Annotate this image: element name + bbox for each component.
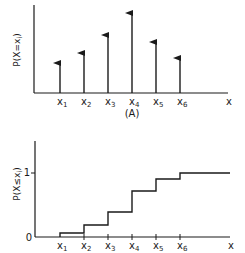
pmf-tick-x6: x6 <box>177 96 188 109</box>
cdf-tick-x3: x3 <box>105 240 115 253</box>
pmf-tick-x2: x2 <box>81 96 91 109</box>
cdf-y-tick-label-one: 1 <box>24 167 30 178</box>
cdf-x-label: x <box>228 240 234 251</box>
pmf-caption: (A) <box>125 108 140 119</box>
cdf-tick-x2: x2 <box>81 240 91 253</box>
cdf-tick-x1: x1 <box>57 240 67 253</box>
pmf-tick-x5: x5 <box>153 96 163 109</box>
cdf-tick-x4: x4 <box>129 240 140 253</box>
pmf-y-label: P(X=xi) <box>12 33 24 66</box>
cdf-tick-x6: x6 <box>177 240 188 253</box>
cdf-y-label: P(X≤xi) <box>12 167 24 200</box>
pmf-tick-x1: x1 <box>57 96 67 109</box>
pmf-stems <box>60 13 180 93</box>
pmf-tick-x3: x3 <box>105 96 115 109</box>
cdf-step-line <box>60 173 230 237</box>
cdf-y-tick-label-zero: 0 <box>26 232 32 243</box>
pmf-x-label: x <box>226 96 232 107</box>
pmf-chart: P(X=xi) x1 x2 x3 x4 x5 x6 x (A) <box>12 5 232 119</box>
cdf-x-ticks: x1 x2 x3 x4 x5 x6 <box>57 240 188 253</box>
cdf-tick-x5: x5 <box>153 240 163 253</box>
cdf-chart: P(X≤xi) 1 0 x1 x2 x3 x4 x5 x6 x <box>12 141 234 253</box>
pmf-x-ticks: x1 x2 x3 x4 x5 x6 <box>57 96 188 109</box>
figure: P(X=xi) x1 x2 x3 x4 x5 x6 x (A) P(X≤xi) … <box>0 0 245 253</box>
